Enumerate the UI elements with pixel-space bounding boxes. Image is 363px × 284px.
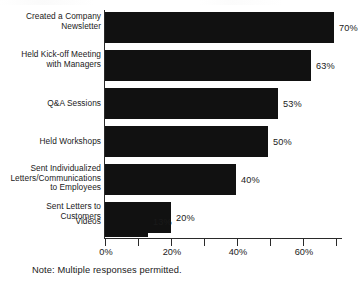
chart-note: Note: Multiple responses permitted. — [32, 265, 182, 275]
x-axis-tick-label: 60% — [295, 247, 314, 257]
category-label: Created a Company Newsletter — [0, 12, 101, 31]
bar-row: Held Workshops 50% — [0, 126, 363, 157]
x-axis-tick-40 — [237, 239, 238, 246]
x-axis-tick-70 — [336, 239, 337, 246]
x-axis-tick-20 — [171, 239, 172, 246]
x-axis-line — [104, 238, 342, 239]
bar-row: Q&A Sessions 53% — [0, 88, 363, 119]
bar-row: Held Kick-off Meeting with Managers 63% — [0, 50, 363, 81]
category-label: Held Workshops — [0, 126, 101, 157]
bar-row: Videos 13% — [0, 206, 363, 237]
x-axis-tick-30 — [204, 239, 205, 246]
bar-row: Sent Individualized Letters/Communicatio… — [0, 164, 363, 195]
horizontal-bar-chart: Created a Company Newsletter 70% Held Ki… — [0, 0, 363, 284]
x-axis-tick-10 — [138, 239, 139, 246]
category-label: Held Kick-off Meeting with Managers — [0, 50, 101, 69]
category-label: Videos — [0, 206, 101, 237]
x-axis-tick-label: 40% — [229, 247, 248, 257]
x-axis-tick-50 — [270, 239, 271, 246]
bar-value-label: 70% — [339, 23, 358, 33]
bar — [105, 50, 311, 81]
bar — [105, 206, 148, 237]
x-axis-tick-60 — [303, 239, 304, 246]
x-axis-tick-label: 0% — [99, 247, 112, 257]
bar-row: Created a Company Newsletter 70% — [0, 12, 363, 43]
bar-value-label: 63% — [316, 61, 335, 71]
x-axis-tick-label: 20% — [163, 247, 182, 257]
bar — [105, 88, 278, 119]
bar — [105, 164, 236, 195]
category-label: Sent Individualized Letters/Communicatio… — [0, 164, 101, 193]
bar-value-label: 40% — [241, 175, 260, 185]
bar-value-label: 50% — [273, 137, 292, 147]
bar-value-label: 13% — [153, 217, 172, 227]
plot-area: Created a Company Newsletter 70% Held Ki… — [0, 0, 363, 240]
category-label: Q&A Sessions — [0, 88, 101, 119]
y-axis-line — [104, 10, 105, 239]
bar — [105, 12, 334, 43]
x-axis-tick-0 — [105, 239, 106, 246]
bar — [105, 126, 268, 157]
bar-value-label: 53% — [283, 99, 302, 109]
